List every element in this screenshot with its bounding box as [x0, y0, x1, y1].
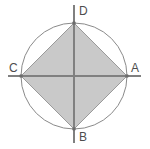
vertex-point-b [72, 127, 76, 131]
vertex-label-c: C [9, 62, 18, 74]
vertex-point-c [19, 74, 23, 78]
vertex-label-b: B [79, 131, 87, 143]
vertex-point-a [125, 74, 129, 78]
figure-canvas [0, 0, 150, 149]
vertex-label-d: D [79, 5, 88, 17]
geometry-figure: D A C B [0, 0, 150, 149]
vertex-point-d [72, 21, 76, 25]
vertex-label-a: A [131, 62, 139, 74]
